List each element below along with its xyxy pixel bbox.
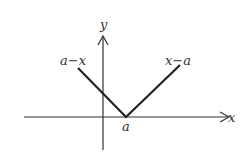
x-axis-label: x [228,110,236,125]
left-branch-label: a−x [60,53,87,68]
absolute-value-diagram: y x a−x x−a a [0,0,248,161]
right-branch-label: x−a [165,53,191,68]
abs-value-graph [78,65,180,117]
y-axis-label: y [99,17,108,32]
vertex-label: a [122,119,130,134]
